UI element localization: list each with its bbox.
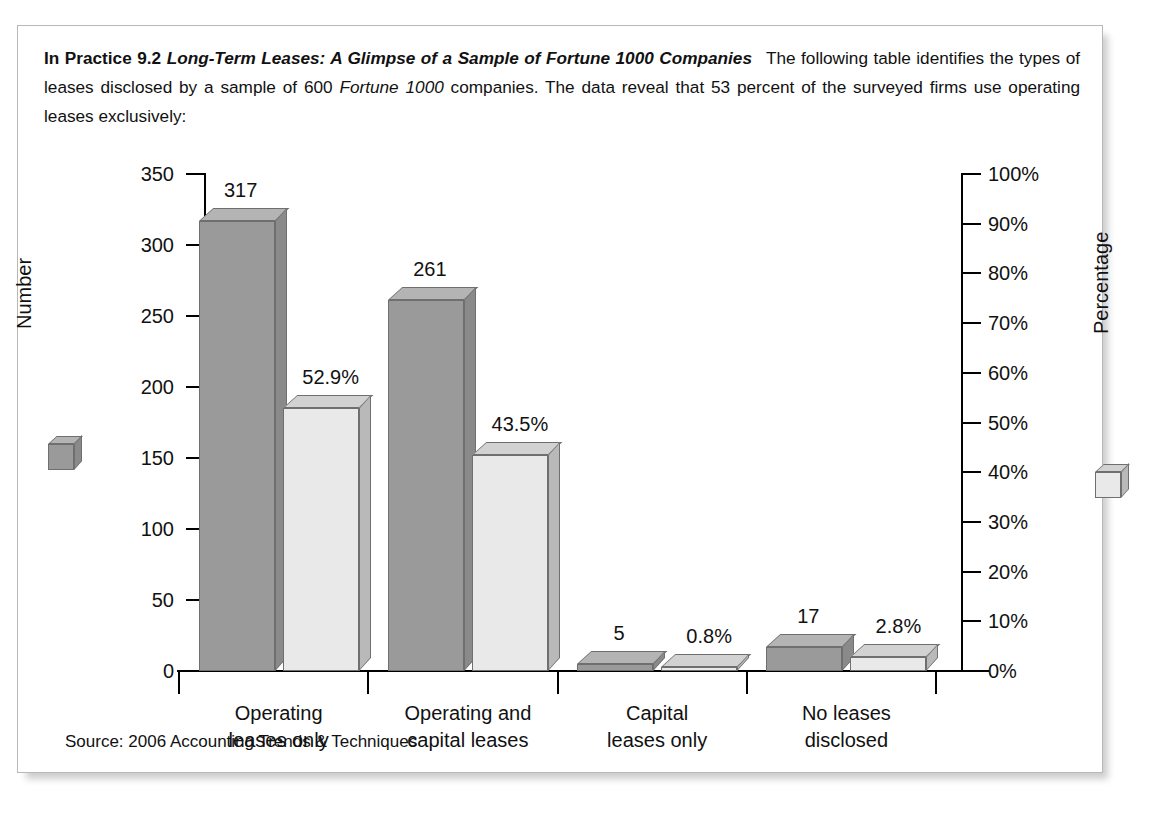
category-label-4-line-2: disclosed	[802, 727, 891, 754]
bar-label-number-3: 5	[614, 622, 625, 645]
right-axis-tick-label: 50%	[988, 411, 1060, 434]
right-axis-tick	[963, 620, 981, 622]
x-axis-group-tick	[557, 672, 559, 694]
bar-label-number-1: 317	[224, 179, 257, 202]
right-axis-tick	[963, 571, 981, 573]
in-practice-title: Long-Term Leases: A Glimpse of a Sample …	[167, 48, 752, 68]
right-axis-tick-label: 40%	[988, 461, 1060, 484]
left-axis-title: Number	[13, 258, 36, 329]
bar-percentage-3-front	[661, 667, 737, 671]
right-axis-tick-label: 60%	[988, 361, 1060, 384]
bar-label-percentage-3: 0.8%	[686, 625, 732, 648]
right-axis-tick	[963, 322, 981, 324]
left-axis-tick	[186, 173, 204, 175]
right-axis-tick	[963, 670, 981, 672]
right-axis-tick	[963, 471, 981, 473]
category-label-2-line-1: Operating and	[404, 700, 531, 727]
left-axis-tick-label: 50	[114, 589, 174, 612]
category-label-1-line-1: Operating	[229, 700, 329, 727]
bar-number-1	[199, 221, 275, 671]
legend-swatch-percentage-front	[1095, 472, 1121, 498]
left-axis-tick-label: 300	[114, 234, 174, 257]
right-axis-tick	[963, 173, 981, 175]
bar-label-number-4: 17	[797, 605, 819, 628]
right-axis-tick	[963, 521, 981, 523]
left-axis-tick-label: 0	[114, 660, 174, 683]
bar-number-3-front	[577, 664, 653, 671]
right-axis-tick	[963, 422, 981, 424]
category-label-3-line-2: leases only	[607, 727, 707, 754]
bar-percentage-4-front	[850, 657, 926, 671]
right-axis-tick-label: 70%	[988, 312, 1060, 335]
category-label-2: Operating andcapital leases	[404, 700, 531, 754]
left-axis-tick-label: 200	[114, 376, 174, 399]
bar-label-percentage-1: 52.9%	[302, 366, 359, 389]
left-axis-tick-label: 350	[114, 163, 174, 186]
category-label-4: No leasesdisclosed	[802, 700, 891, 754]
right-axis-tick-label: 0%	[988, 660, 1060, 683]
right-axis-tick	[963, 272, 981, 274]
right-axis-tick-label: 80%	[988, 262, 1060, 285]
right-axis-tick-label: 30%	[988, 510, 1060, 533]
in-practice-lead: In Practice 9.2	[44, 48, 161, 68]
bar-label-percentage-4: 2.8%	[876, 615, 922, 638]
bar-percentage-4	[850, 657, 926, 671]
bar-percentage-3	[661, 667, 737, 671]
bar-percentage-2	[472, 455, 548, 671]
bar-number-2	[388, 300, 464, 671]
category-label-3-line-1: Capital	[607, 700, 707, 727]
source-note: Source: 2006 Accounting Trends & Techniq…	[65, 732, 417, 752]
right-axis-tick-label: 100%	[988, 163, 1060, 186]
bar-number-4	[766, 647, 842, 671]
x-axis-group-tick	[746, 672, 748, 694]
bar-label-percentage-2: 43.5%	[492, 413, 549, 436]
bar-percentage-1-side	[359, 395, 371, 671]
left-axis-tick-label: 100	[114, 518, 174, 541]
intro-paragraph: In Practice 9.2 Long-Term Leases: A Glim…	[44, 44, 1080, 131]
x-axis-group-tick	[935, 672, 937, 694]
bar-number-3	[577, 664, 653, 671]
legend-swatch-number	[48, 444, 74, 470]
right-axis-title: Percentage	[1090, 232, 1113, 334]
right-axis-tick-label: 10%	[988, 610, 1060, 633]
x-axis-group-tick	[178, 672, 180, 694]
bar-percentage-2-side	[548, 441, 560, 671]
legend-swatch-number-front	[48, 444, 74, 470]
bar-number-4-front	[766, 647, 842, 671]
bar-number-2-front	[388, 300, 464, 671]
right-axis-tick-label: 20%	[988, 560, 1060, 583]
fortune-1000-italic: Fortune 1000	[339, 77, 443, 97]
x-axis-group-tick	[367, 672, 369, 694]
category-label-3: Capitalleases only	[607, 700, 707, 754]
category-label-4-line-1: No leases	[802, 700, 891, 727]
left-axis-tick-label: 250	[114, 305, 174, 328]
bar-number-1-front	[199, 221, 275, 671]
left-axis-tick-label: 150	[114, 447, 174, 470]
leases-bar-chart: Number Percentage 0501001502002503003500…	[18, 144, 1104, 724]
right-axis-tick-label: 90%	[988, 212, 1060, 235]
legend-swatch-percentage	[1095, 472, 1121, 498]
bar-percentage-1-front	[283, 408, 359, 671]
in-practice-card: In Practice 9.2 Long-Term Leases: A Glim…	[17, 25, 1103, 773]
right-axis-tick	[963, 223, 981, 225]
bar-percentage-1	[283, 408, 359, 671]
category-label-2-line-2: capital leases	[404, 727, 531, 754]
bar-percentage-2-front	[472, 455, 548, 671]
bar-label-number-2: 261	[413, 258, 446, 281]
right-axis-tick	[963, 372, 981, 374]
